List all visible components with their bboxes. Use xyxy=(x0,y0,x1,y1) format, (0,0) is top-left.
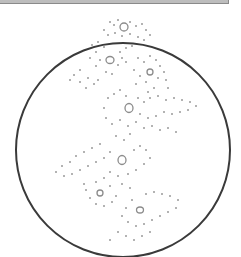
lace-dot-pattern xyxy=(55,19,197,241)
flower-3 xyxy=(133,55,169,93)
flower-center-2 xyxy=(106,57,114,64)
flower-center-6 xyxy=(97,190,103,196)
flower-2 xyxy=(69,41,133,89)
embroidery-hoop xyxy=(16,43,230,257)
flower-4 xyxy=(103,89,197,141)
flower-center-3 xyxy=(147,69,153,75)
flower-7 xyxy=(109,191,179,241)
flower-center-1 xyxy=(120,23,128,31)
lace-pattern-canvas xyxy=(0,0,241,257)
flower-center-7 xyxy=(137,207,144,213)
flower-6 xyxy=(83,183,117,207)
flower-center-4 xyxy=(125,104,133,113)
flower-center-5 xyxy=(118,156,126,165)
flower-5 xyxy=(55,143,151,189)
